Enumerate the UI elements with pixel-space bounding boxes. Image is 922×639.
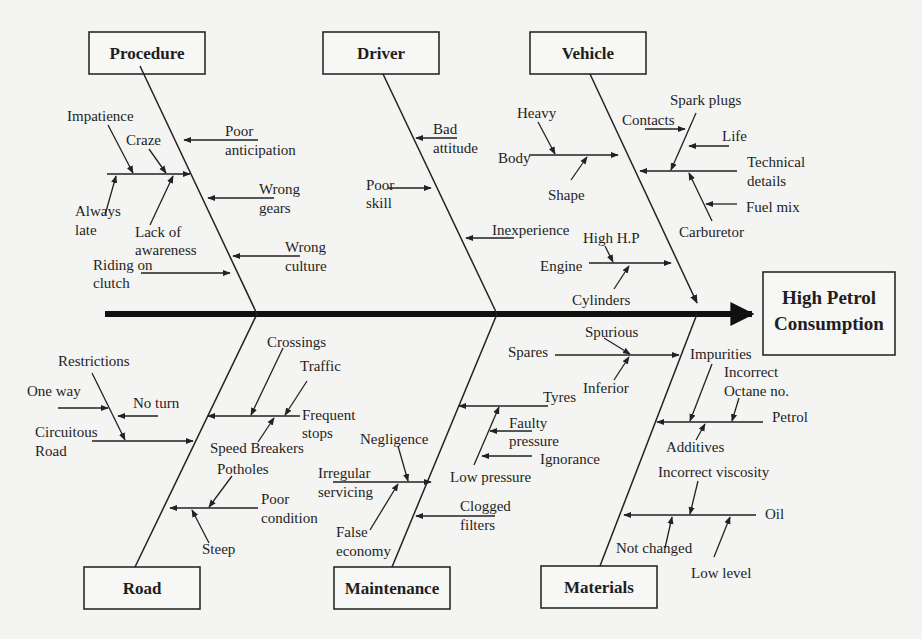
cause-additives: Additives	[666, 439, 724, 455]
cause-wrong-culture-2: culture	[285, 258, 327, 274]
cause-speed-breakers: Speed Breakers	[210, 440, 304, 456]
cause-faulty-pressure-2: pressure	[509, 433, 559, 449]
cause-poor-condition-1: Poor	[261, 491, 289, 507]
cause-impatience: Impatience	[67, 108, 134, 124]
cause-always-late-1: Always	[75, 203, 121, 219]
cause-wrong-gears-1: Wrong	[259, 181, 301, 197]
cause-irregular-servicing-1: Irregular	[318, 465, 370, 481]
cause-poor-skill-1: Poor	[366, 177, 394, 193]
cause-clogged-filters-1: Clogged	[460, 498, 511, 514]
vehicle-bone	[590, 74, 697, 303]
cause-poor-anticipation-1: Poor	[225, 123, 253, 139]
cause-traffic: Traffic	[300, 358, 341, 374]
cause-carburetor: Carburetor	[679, 224, 744, 240]
category-road: Road Restrictions One way No turn Circui…	[27, 314, 356, 609]
cause-ignorance: Ignorance	[540, 451, 600, 467]
cause-wrong-gears-2: gears	[259, 200, 291, 216]
cause-technical-details-2: details	[747, 173, 786, 189]
cause-circuitous-road-2: Road	[35, 443, 67, 459]
cause-circuitous-road-1: Circuitous	[35, 424, 98, 440]
cause-steep: Steep	[202, 541, 235, 557]
cause-lack-awareness-2: awareness	[135, 242, 197, 258]
cause-cylinders: Cylinders	[572, 292, 630, 308]
cause-one-way: One way	[27, 383, 81, 399]
cause-negligence: Negligence	[360, 431, 429, 447]
cause-technical-details-1: Technical	[747, 154, 805, 170]
cause-life: Life	[722, 128, 747, 144]
maintenance-title: Maintenance	[345, 579, 440, 598]
cause-faulty-pressure-1: Faulty	[509, 415, 548, 431]
cause-shape: Shape	[548, 187, 585, 203]
vehicle-title: Vehicle	[562, 44, 615, 63]
cause-engine: Engine	[540, 258, 583, 274]
cause-bad-attitude-2: attitude	[433, 140, 478, 156]
cause-riding-clutch-2: clutch	[93, 275, 130, 291]
category-maintenance: Maintenance Negligence Irregular servici…	[318, 314, 600, 609]
category-vehicle: Vehicle Heavy Body Shape Spark plugs Con…	[498, 32, 805, 308]
effect-title-line1: High Petrol	[782, 287, 876, 308]
cause-spares: Spares	[508, 344, 548, 360]
materials-title: Materials	[564, 578, 634, 597]
driver-bone	[383, 74, 497, 314]
cause-spark-plugs: Spark plugs	[670, 92, 741, 108]
cause-always-late-2: late	[75, 222, 97, 238]
cause-restrictions: Restrictions	[58, 353, 130, 369]
cause-oil: Oil	[765, 506, 784, 522]
cause-low-pressure: Low pressure	[450, 469, 532, 485]
cause-high-hp: High H.P	[583, 230, 640, 246]
cause-riding-clutch-1: Riding on	[93, 257, 153, 273]
cause-tyres: Tyres	[543, 389, 576, 405]
cause-potholes: Potholes	[217, 461, 269, 477]
cause-impurities: Impurities	[690, 346, 752, 362]
cause-petrol: Petrol	[772, 409, 808, 425]
cause-spurious: Spurious	[585, 324, 639, 340]
cause-craze: Craze	[126, 132, 161, 148]
cause-frequent-stops-2: stops	[302, 425, 333, 441]
cause-poor-skill-2: skill	[366, 195, 392, 211]
procedure-bone	[140, 66, 257, 314]
effect-title-line2: Consumption	[774, 313, 884, 334]
cause-heavy: Heavy	[517, 105, 557, 121]
cause-inferior: Inferior	[583, 380, 629, 396]
cause-contacts: Contacts	[622, 112, 675, 128]
cause-bad-attitude-1: Bad	[433, 121, 458, 137]
cause-irregular-servicing-2: servicing	[318, 484, 373, 500]
cause-fuel-mix: Fuel mix	[746, 199, 800, 215]
cause-not-changed: Not changed	[616, 540, 693, 556]
cause-low-level: Low level	[691, 565, 751, 581]
cause-lack-awareness-1: Lack of	[135, 224, 181, 240]
cause-crossings: Crossings	[267, 334, 326, 350]
cause-incorrect-octane-1: Incorrect	[724, 364, 779, 380]
cause-clogged-filters-2: filters	[460, 517, 495, 533]
cause-frequent-stops-1: Frequent	[302, 407, 356, 423]
cause-no-turn: No turn	[133, 395, 180, 411]
road-title: Road	[123, 579, 162, 598]
cause-incorrect-octane-2: Octane no.	[724, 383, 789, 399]
cause-incorrect-viscosity: Incorrect viscosity	[658, 464, 770, 480]
driver-title: Driver	[357, 44, 406, 63]
fishbone-diagram: High Petrol Consumption Procedure Impati…	[0, 0, 922, 639]
cause-poor-condition-2: condition	[261, 510, 318, 526]
cause-wrong-culture-1: Wrong	[285, 239, 327, 255]
cause-inexperience: Inexperience	[492, 222, 570, 238]
cause-false-economy-1: False	[336, 524, 368, 540]
effect-box: High Petrol Consumption	[763, 272, 895, 355]
procedure-title: Procedure	[110, 44, 185, 63]
cause-body: Body	[498, 150, 531, 166]
cause-false-economy-2: economy	[336, 543, 391, 559]
category-procedure: Procedure Impatience Craze Always late L…	[67, 32, 327, 314]
cause-poor-anticipation-2: anticipation	[225, 142, 296, 158]
